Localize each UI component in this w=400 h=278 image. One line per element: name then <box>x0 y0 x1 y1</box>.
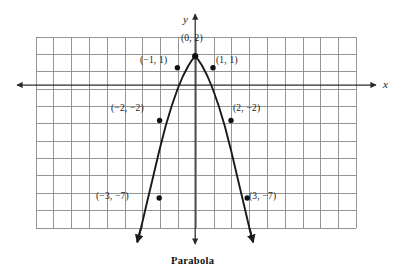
parabola-figure: (0, 2) (−1, 1) (1, 1) (−2, −2) (2, −2) (… <box>0 0 400 278</box>
y-axis-label: y <box>183 14 188 25</box>
point-label-left-1: (−1, 1) <box>140 56 167 66</box>
grid-lines <box>36 37 356 228</box>
data-point <box>157 195 162 200</box>
data-point <box>210 65 215 70</box>
data-points <box>157 53 250 201</box>
point-label-right-1: (1, 1) <box>216 56 238 66</box>
data-point <box>228 118 233 123</box>
data-point <box>175 65 180 70</box>
point-label-vertex: (0, 2) <box>181 34 203 44</box>
data-point <box>192 53 198 59</box>
point-label-right-2: (2, −2) <box>233 104 260 114</box>
point-label-right-3: (3, −7) <box>249 192 276 202</box>
x-axis-label: x <box>383 79 388 90</box>
data-point <box>157 118 162 123</box>
point-label-left-2: (−2, −2) <box>111 104 144 114</box>
figure-caption: Parabola <box>171 256 214 267</box>
point-label-left-3: (−3, −7) <box>96 192 129 202</box>
